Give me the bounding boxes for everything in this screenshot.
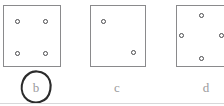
panel-b-dot — [15, 19, 20, 24]
panel-label-d: d — [196, 81, 216, 94]
panel-c-dot — [131, 50, 136, 55]
panel-b-dot — [43, 19, 48, 24]
panel-b-box — [3, 5, 61, 67]
multi-panel-dot-figure: b c d — [0, 0, 224, 106]
panel-c-dot — [101, 19, 106, 24]
panel-d-dot — [199, 56, 204, 61]
panel-d-dot — [219, 33, 224, 38]
panel-c-box — [90, 5, 146, 67]
panel-label-b: b — [26, 81, 46, 94]
panel-d-dot — [179, 33, 184, 38]
bottom-divider — [0, 103, 224, 104]
panel-b-dot — [43, 51, 48, 56]
panel-label-c: c — [107, 81, 127, 94]
panel-b-dot — [15, 51, 20, 56]
panel-d-dot — [199, 13, 204, 18]
